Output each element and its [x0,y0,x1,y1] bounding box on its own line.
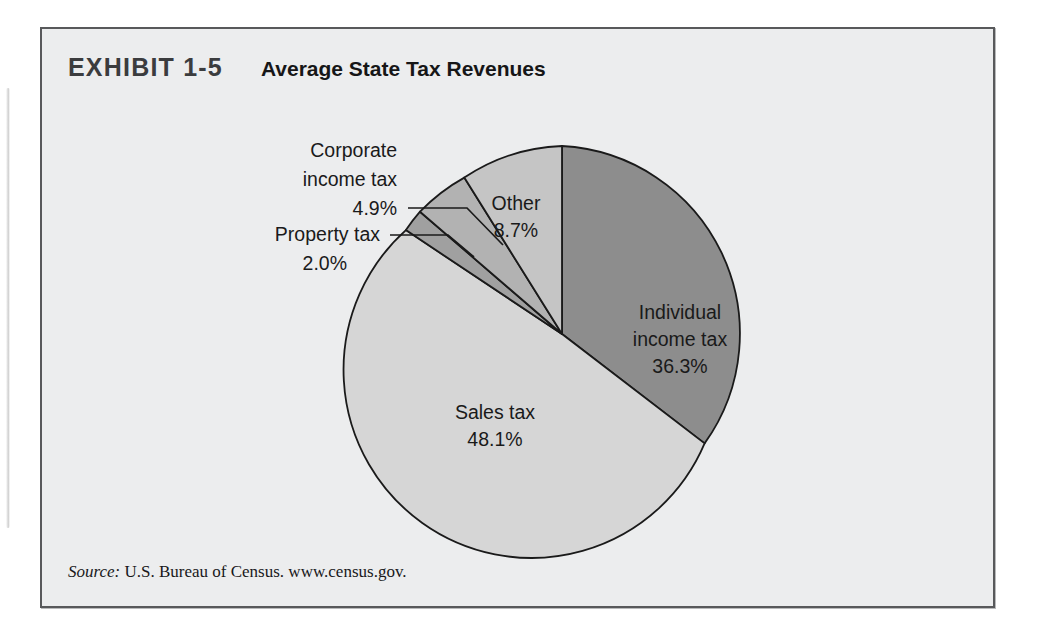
source-label: Source: [68,562,120,581]
source-line: Source: U.S. Bureau of Census. www.censu… [68,562,407,582]
slice-label-individual-income-tax-line2: income tax [633,328,728,350]
slice-label-other-value: 8.7% [494,219,538,241]
callout-label-property-tax-line1: Property tax [275,223,380,245]
slice-label-sales-tax-line1: Sales tax [455,401,535,423]
slice-label-individual-income-tax-line1: Individual [639,301,721,323]
source-text: U.S. Bureau of Census. www.census.gov. [125,562,407,581]
pie-chart: Individual income tax 36.3% Sales tax 48… [42,29,993,606]
slice-label-other-line1: Other [492,192,541,214]
callout-label-corporate-income-tax-value: 4.9% [353,197,397,219]
callout-label-corporate-income-tax-line1: Corporate [310,139,397,161]
pie-chart-svg: Individual income tax 36.3% Sales tax 48… [42,29,993,606]
exhibit-panel: EXHIBIT 1-5 Average State Tax Revenues I… [40,27,995,608]
page-edge-artifact [6,88,10,528]
callout-label-corporate-income-tax-line2: income tax [303,168,398,190]
slice-label-individual-income-tax-value: 36.3% [652,355,707,377]
callout-label-property-tax-value: 2.0% [303,252,347,274]
slice-label-sales-tax-value: 48.1% [467,428,522,450]
